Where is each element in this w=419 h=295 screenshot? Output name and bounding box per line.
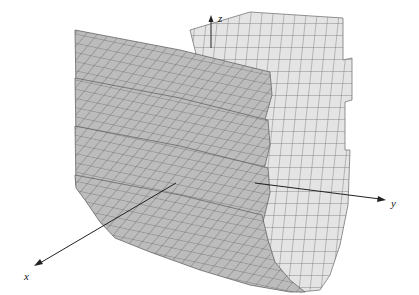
surface-plot <box>0 0 419 295</box>
x-axis-label: x <box>24 270 29 282</box>
y-axis-label: y <box>391 197 396 209</box>
z-axis-label: z <box>218 12 222 24</box>
figure-canvas: z y x <box>0 0 419 295</box>
